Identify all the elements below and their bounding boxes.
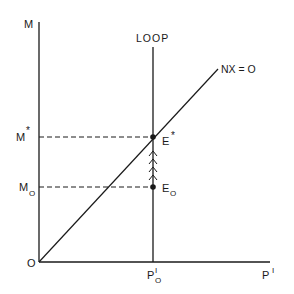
e-zero-point [150, 184, 156, 190]
x-tick-sup: I [155, 266, 157, 275]
m-star-sup: * [26, 125, 30, 136]
e-star-sup: * [171, 130, 175, 141]
nx-zero-line [39, 69, 218, 262]
x-axis-label: P [262, 269, 269, 281]
nx-zero-label: NX = O [221, 63, 256, 75]
x-tick-sub: O [155, 276, 161, 285]
loop-nx-diagram: M LOOP NX = O M * M O E * E O O P I O P … [0, 0, 294, 294]
m-zero-label: M [19, 181, 28, 193]
x-axis-sup: I [272, 266, 274, 275]
e-zero-sub: O [170, 189, 176, 198]
e-star-label: E [162, 135, 169, 147]
m-zero-sub: O [29, 189, 35, 198]
origin-label: O [27, 257, 36, 269]
e-star-point [150, 134, 156, 140]
e-zero-label: E [162, 182, 169, 194]
m-star-label: M [16, 131, 25, 143]
loop-label: LOOP [136, 32, 169, 44]
x-tick-label: P [147, 269, 154, 281]
y-axis-label: M [24, 18, 33, 30]
